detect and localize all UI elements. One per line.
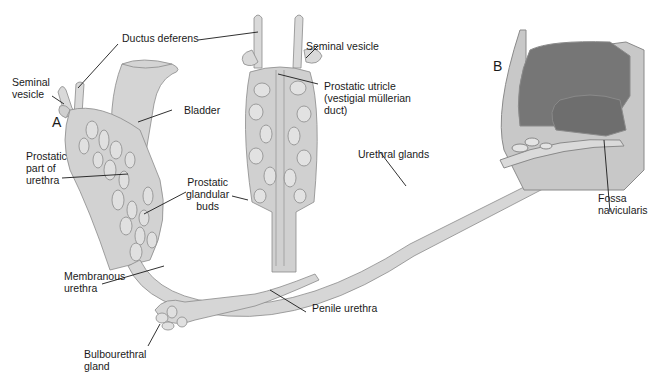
label-penile-urethra: Penile urethra [312,302,377,314]
label-bladder: Bladder [184,104,220,116]
label-urethral-glands: Urethral glands [358,148,429,160]
panel-b-illustration [500,30,644,190]
panel-label-b: B [493,58,502,74]
label-prostatic-glandular-buds: Prostatic glandular buds [186,176,229,212]
label-ductus-deferens: Ductus deferens [122,32,198,44]
label-seminal-vesicle-left: Seminal vesicle [12,76,50,100]
panel-label-a: A [52,114,61,130]
label-membranous-urethra: Membranous urethra [64,270,125,294]
diagram-canvas: A B Ductus deferens Seminal vesicle Semi… [0,0,660,379]
label-fossa-navicularis: Fossa navicularis [598,192,648,216]
label-bulbourethral-gland: Bulbourethral gland [84,348,146,372]
label-seminal-vesicle-right: Seminal vesicle [306,40,379,52]
label-prostatic-part-urethra: Prostatic part of urethra [26,150,67,186]
label-prostatic-utricle: Prostatic utricle (vestigial müllerian d… [324,80,411,116]
anatomy-illustration [0,0,660,379]
